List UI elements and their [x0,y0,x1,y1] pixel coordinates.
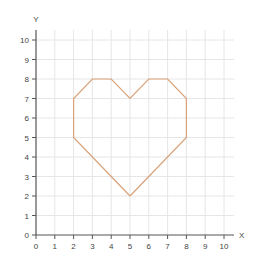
chart: 012345678910012345678910 X Y [0,0,263,266]
x-axis-label: X [239,231,245,240]
y-tick-label: 5 [25,134,30,143]
x-tick-label: 6 [147,242,152,251]
y-tick-label: 10 [20,36,29,45]
y-tick-label: 4 [25,153,30,162]
x-tick-label: 1 [53,242,58,251]
y-tick-label: 3 [25,173,30,182]
x-tick-label: 10 [220,242,229,251]
y-tick-label: 9 [25,56,30,65]
y-tick-label: 2 [25,192,30,201]
y-tick-label: 7 [25,95,30,104]
x-tick-label: 9 [203,242,208,251]
y-tick-label: 0 [25,231,30,240]
x-tick-label: 0 [34,242,39,251]
x-tick-label: 2 [71,242,76,251]
x-tick-label: 4 [109,242,114,251]
x-tick-label: 3 [90,242,95,251]
x-tick-label: 8 [184,242,189,251]
y-axis-label: Y [33,15,39,24]
ticks: 012345678910012345678910 [20,36,229,251]
y-tick-label: 1 [25,212,30,221]
x-tick-label: 7 [165,242,170,251]
y-tick-label: 8 [25,75,30,84]
grid [36,30,234,235]
x-tick-label: 5 [128,242,133,251]
y-tick-label: 6 [25,114,30,123]
axes [36,30,234,235]
